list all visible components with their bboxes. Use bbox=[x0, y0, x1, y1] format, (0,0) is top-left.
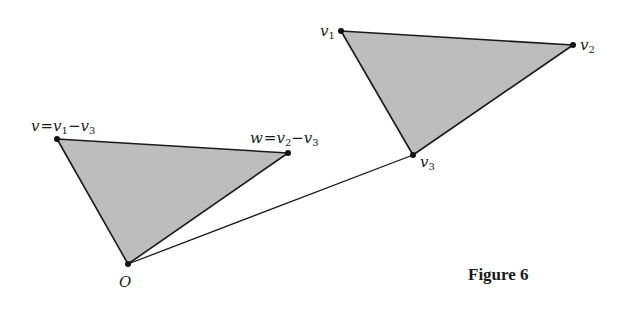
figure-caption: Figure 6 bbox=[468, 265, 529, 284]
triangle-translated bbox=[57, 139, 288, 264]
label-origin: O bbox=[119, 273, 131, 291]
point-v3 bbox=[410, 152, 416, 158]
point-v1 bbox=[338, 28, 344, 34]
point-w bbox=[285, 150, 291, 156]
label-v1: v1 bbox=[320, 22, 335, 41]
label-v3: v3 bbox=[420, 153, 435, 172]
point-v bbox=[54, 136, 60, 142]
triangle-original bbox=[341, 31, 573, 155]
figure-canvas: v=v1−v3 w=v2−v3 O v1 v2 v3 Figure 6 bbox=[0, 0, 624, 311]
label-w: w=v2−v3 bbox=[250, 129, 319, 148]
label-v2: v2 bbox=[580, 36, 595, 55]
point-v2 bbox=[570, 42, 576, 48]
label-v: v=v1−v3 bbox=[31, 117, 95, 136]
point-origin bbox=[125, 261, 131, 267]
